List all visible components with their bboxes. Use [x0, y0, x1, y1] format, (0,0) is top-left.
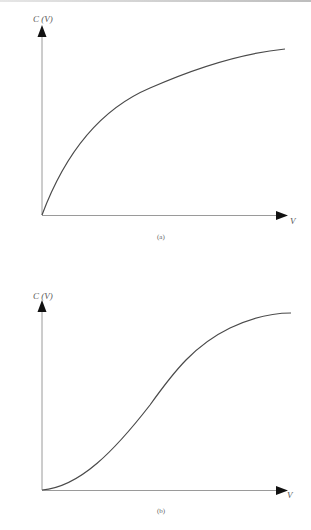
figure-caption: (a): [157, 234, 165, 241]
figure-a: C (V) V (a): [0, 0, 311, 265]
y-axis-arrow-icon: [38, 25, 47, 37]
x-axis-label: V: [290, 217, 296, 226]
x-axis-arrow-icon: [276, 211, 288, 220]
figure-b: C (V) V (b): [0, 265, 311, 530]
y-axis-label: C (V): [33, 15, 53, 24]
curve-sigmoid: [42, 313, 291, 490]
chart-a-plot: [0, 0, 311, 265]
chart-b-plot: [0, 265, 311, 530]
y-axis-arrow-icon: [38, 300, 47, 312]
x-axis-label: V: [287, 491, 293, 500]
curve-concave: [42, 49, 285, 215]
figure-caption: (b): [157, 508, 165, 515]
y-axis-label: C (V): [33, 292, 53, 301]
